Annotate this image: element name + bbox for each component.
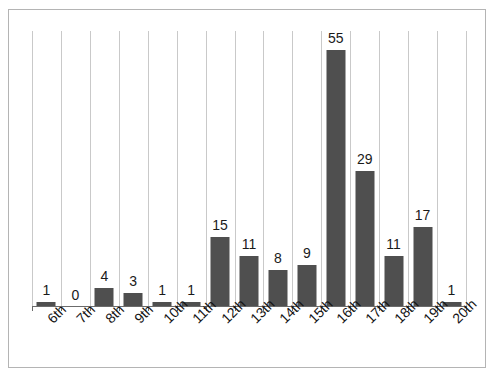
bar-value-label: 3 <box>129 274 137 288</box>
bar-value-label: 11 <box>386 237 401 251</box>
bar-value-label: 1 <box>158 283 166 297</box>
bar-group[interactable]: 11 <box>235 31 264 307</box>
bar-group[interactable]: 0 <box>61 31 90 307</box>
bar[interactable] <box>413 227 432 307</box>
x-axis-tick-labels: 6th7th8th9th10th11th12th13th14th15th16th… <box>32 309 466 367</box>
bar-value-label: 55 <box>328 31 344 45</box>
bar[interactable] <box>384 256 403 307</box>
bar[interactable] <box>239 256 258 307</box>
bar-group[interactable]: 1 <box>148 31 177 307</box>
bar-group[interactable]: 11 <box>379 31 408 307</box>
bar-group[interactable]: 1 <box>437 31 466 307</box>
bar-value-label: 17 <box>415 208 431 222</box>
bar-value-label: 0 <box>71 288 79 302</box>
bar-value-label: 9 <box>303 246 311 260</box>
gridline <box>466 31 467 307</box>
bar-group[interactable]: 4 <box>90 31 119 307</box>
bar-value-label: 29 <box>357 152 373 166</box>
bar-group[interactable]: 29 <box>350 31 379 307</box>
bar-value-label: 11 <box>242 237 257 251</box>
bar-group[interactable]: 1 <box>32 31 61 307</box>
bar[interactable] <box>211 237 230 307</box>
bar-value-label: 1 <box>43 283 51 297</box>
bar-group[interactable]: 17 <box>408 31 437 307</box>
bar-value-label: 8 <box>274 251 282 265</box>
bar-group[interactable]: 15 <box>206 31 235 307</box>
bar[interactable] <box>355 171 374 307</box>
bar-value-label: 1 <box>187 283 195 297</box>
bar-group[interactable]: 1 <box>177 31 206 307</box>
plot-area: 104311151189552911171 <box>32 31 466 307</box>
chart-frame: 104311151189552911171 6th7th8th9th10th11… <box>8 9 486 368</box>
bar-group[interactable]: 55 <box>321 31 350 307</box>
bar-series: 104311151189552911171 <box>32 31 466 307</box>
bar-value-label: 15 <box>212 218 228 232</box>
bar-group[interactable]: 3 <box>119 31 148 307</box>
bar-value-label: 1 <box>448 283 456 297</box>
bar-value-label: 4 <box>100 269 108 283</box>
bar-group[interactable]: 8 <box>263 31 292 307</box>
bar[interactable] <box>326 50 345 307</box>
bar-group[interactable]: 9 <box>292 31 321 307</box>
